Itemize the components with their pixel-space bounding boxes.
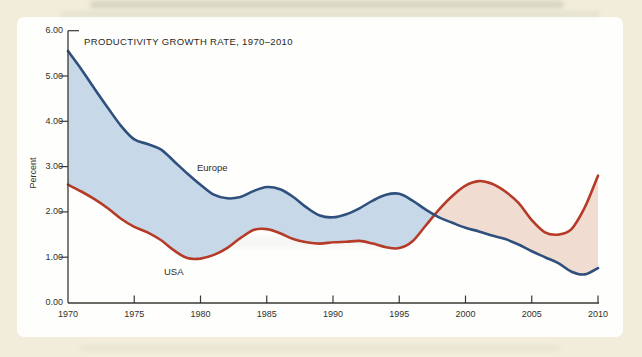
chart-title: PRODUCTIVITY GROWTH RATE, 1970–2010 bbox=[84, 36, 293, 47]
x-axis-tick-label: 2000 bbox=[448, 309, 484, 320]
series-label-europe: Europe bbox=[197, 162, 228, 173]
x-axis-tick-label: 1970 bbox=[50, 309, 86, 320]
x-axis-tick-label: 1990 bbox=[315, 309, 351, 320]
x-axis-tick-label: 1975 bbox=[116, 309, 152, 320]
x-axis-tick-label: 1985 bbox=[249, 309, 285, 320]
series-label-usa: USA bbox=[164, 266, 184, 277]
europe-above-fill bbox=[68, 51, 435, 259]
x-axis-tick-label: 2010 bbox=[580, 309, 616, 320]
x-axis-tick-label: 1995 bbox=[381, 309, 417, 320]
page-background: PRODUCTIVITY GROWTH RATE, 1970–2010 Perc… bbox=[0, 0, 642, 357]
y-axis-tick-label: 0.00 bbox=[33, 297, 63, 308]
y-axis-tick-label: 6.00 bbox=[33, 25, 63, 36]
x-axis-tick-label: 2005 bbox=[514, 309, 550, 320]
y-axis-tick-label: 4.00 bbox=[33, 116, 63, 127]
y-axis-tick-label: 1.00 bbox=[33, 252, 63, 263]
chart-plot bbox=[0, 0, 642, 357]
y-axis-tick-label: 5.00 bbox=[33, 71, 63, 82]
x-axis-tick-label: 1980 bbox=[183, 309, 219, 320]
y-axis-tick-label: 2.00 bbox=[33, 206, 63, 217]
y-axis-tick-label: 3.00 bbox=[33, 161, 63, 172]
